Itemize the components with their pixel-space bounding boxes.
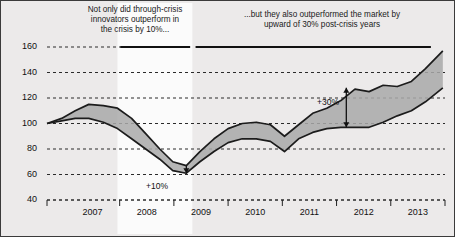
x-tick-label-2011: 2011 — [287, 207, 331, 217]
y-tick-label-160: 160 — [9, 41, 37, 51]
x-tick-label-2013: 2013 — [396, 207, 440, 217]
y-tick-label-80: 80 — [9, 143, 37, 153]
y-tick-label-60: 60 — [9, 169, 37, 179]
x-tick-label-2012: 2012 — [342, 207, 386, 217]
left-callout-line-1: Not only did through-crisis — [79, 5, 191, 15]
left-callout-line-3: the crisis by 10%... — [79, 25, 191, 35]
left-callout-line-2: innovators outperform in — [79, 15, 191, 25]
y-tick-label-140: 140 — [9, 67, 37, 77]
x-tick-label-2007: 2007 — [71, 207, 115, 217]
gap-low-label: +10% — [146, 181, 168, 191]
y-tick-label-120: 120 — [9, 92, 37, 102]
chart-figure: Not only did through-crisis innovators o… — [0, 0, 455, 237]
left-callout-text: Not only did through-crisis innovators o… — [79, 5, 191, 36]
right-callout-line-2: upward of 30% post-crisis years — [199, 20, 445, 30]
right-callout-text: ...but they also outperformed the market… — [199, 10, 445, 30]
x-tick-label-2010: 2010 — [233, 207, 277, 217]
y-tick-label-40: 40 — [9, 194, 37, 204]
series-gap-band — [47, 51, 443, 173]
x-tick-label-2008: 2008 — [125, 207, 169, 217]
y-tick-label-100: 100 — [9, 118, 37, 128]
x-tick-label-2009: 2009 — [179, 207, 223, 217]
right-callout-line-1: ...but they also outperformed the market… — [199, 10, 445, 20]
gap-arrow-head-up-1 — [343, 88, 349, 93]
chart-plot-area — [1, 1, 455, 237]
gap-high-label: +30% — [317, 97, 339, 107]
